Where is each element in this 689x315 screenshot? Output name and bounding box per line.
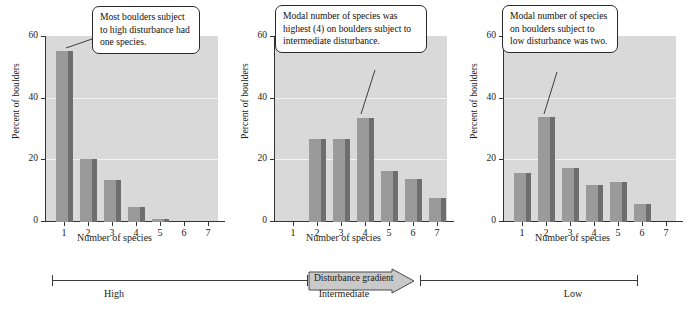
strip-label-low: Low xyxy=(564,288,582,299)
strip-endcap-right xyxy=(637,275,638,286)
disturbance-gradient-strip: Disturbance gradient High Intermediate L… xyxy=(0,266,689,306)
strip-line-left xyxy=(52,280,308,281)
callout-low-disturbance: Modal number of species on boulders subj… xyxy=(502,5,618,53)
callout-high-disturbance: Most boulders subject to high disturbanc… xyxy=(92,6,200,54)
callout-intermediate-disturbance: Modal number of species was highest (4) … xyxy=(275,5,427,53)
strip-label-high: High xyxy=(104,288,124,299)
chart-panel-low: Percent of boulders 60 40 20 0 xyxy=(458,0,687,262)
panels-row: Percent of boulders 60 40 20 0 xyxy=(0,0,689,262)
chart-panel-intermediate: Percent of boulders 60 40 20 0 xyxy=(229,0,458,262)
figure-root: Percent of boulders 60 40 20 0 xyxy=(0,0,689,315)
arrow-label: Disturbance gradient xyxy=(314,274,392,284)
chart-panel-high: Percent of boulders 60 40 20 0 xyxy=(0,0,229,262)
strip-label-intermediate: Intermediate xyxy=(319,288,370,299)
strip-line-right xyxy=(420,280,638,281)
strip-endcap-left xyxy=(52,275,53,286)
